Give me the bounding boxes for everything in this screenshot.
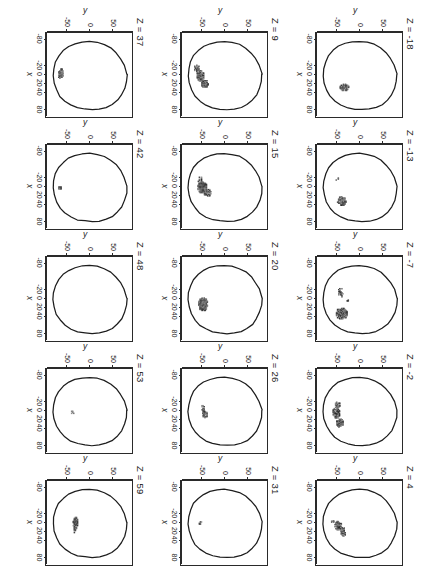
- x-axis-tick-label: 80: [171, 329, 178, 337]
- slice-panel: Z = 42-80-200204080x500-50y: [12, 124, 147, 236]
- panel-title: Z = 4: [405, 466, 416, 489]
- x-axis-tick-label: -20: [36, 508, 43, 518]
- x-axis-tick-label: 20: [171, 191, 178, 199]
- y-axis-tick: [66, 253, 67, 256]
- x-axis-tick: [314, 298, 317, 299]
- plot-area: [180, 144, 268, 230]
- x-axis-tick: [44, 333, 47, 334]
- x-axis-tick-label: 20: [171, 415, 178, 423]
- activation-clusters: [46, 369, 132, 453]
- y-axis-tick: [201, 365, 202, 368]
- plot-area: [315, 368, 403, 454]
- x-axis-title: x: [25, 256, 35, 340]
- y-axis-tick-label: -50: [334, 17, 341, 27]
- y-axis-tick: [201, 477, 202, 480]
- y-axis-tick: [89, 253, 90, 256]
- y-axis-title: y: [218, 229, 222, 239]
- x-axis-tick-label: -80: [171, 482, 178, 492]
- x-axis-tick: [44, 513, 47, 514]
- activation-clusters: [46, 33, 132, 117]
- y-axis-tick: [247, 477, 248, 480]
- slice-panel: Z = 4-80-200204080x500-50y: [282, 460, 417, 572]
- x-axis-tick-label: -80: [171, 258, 178, 268]
- y-axis-tick-label: 0: [357, 23, 364, 27]
- y-axis-tick: [359, 253, 360, 256]
- x-axis-tick: [179, 531, 182, 532]
- y-axis-tick-label: -50: [334, 129, 341, 139]
- x-axis-tick: [179, 65, 182, 66]
- y-axis: 500-50: [182, 236, 268, 256]
- y-axis-tick-label: 50: [244, 467, 251, 475]
- x-axis-tick-label: -80: [306, 34, 313, 44]
- y-axis-tick-label: -50: [199, 17, 206, 27]
- activation-clusters: [46, 481, 132, 565]
- x-axis-tick: [314, 419, 317, 420]
- y-axis-tick-label: -50: [199, 353, 206, 363]
- x-axis-title: x: [25, 368, 35, 452]
- slice-panel: Z = 53-80-200204080x500-50y: [12, 348, 147, 460]
- x-axis-tick-label: 20: [306, 527, 313, 535]
- y-axis-title: y: [83, 453, 87, 463]
- x-axis-tick: [179, 557, 182, 558]
- slice-panel: Z = 59-80-200204080x500-50y: [12, 460, 147, 572]
- x-axis-tick-label: 0: [171, 296, 178, 300]
- slice-panel: Z = 31-80-200204080x500-50y: [147, 460, 282, 572]
- x-axis-tick: [314, 401, 317, 402]
- y-axis-tick-label: 50: [109, 243, 116, 251]
- x-axis-title: x: [295, 480, 305, 564]
- x-axis-title: x: [25, 144, 35, 228]
- x-axis-title: x: [295, 144, 305, 228]
- x-axis-tick: [44, 445, 47, 446]
- x-axis-tick: [44, 531, 47, 532]
- x-axis-tick: [179, 487, 182, 488]
- x-axis-tick: [314, 186, 317, 187]
- x-axis-tick-label: -80: [36, 146, 43, 156]
- x-axis-tick-label: -20: [36, 284, 43, 294]
- activation-clusters: [181, 257, 267, 341]
- y-axis: 500-50: [317, 12, 403, 32]
- x-axis-tick: [314, 263, 317, 264]
- plot-area: [45, 256, 133, 342]
- y-axis-tick-label: 0: [87, 471, 94, 475]
- y-axis-tick-label: -50: [64, 241, 71, 251]
- x-axis-tick: [179, 333, 182, 334]
- x-axis-tick: [314, 109, 317, 110]
- x-axis-tick: [44, 186, 47, 187]
- y-axis-tick-label: 50: [109, 131, 116, 139]
- y-axis-line: [47, 31, 133, 32]
- y-axis-line: [317, 255, 403, 256]
- x-axis-tick-label: 20: [171, 79, 178, 87]
- y-axis-tick: [336, 141, 337, 144]
- y-axis: 500-50: [182, 124, 268, 144]
- y-axis-tick-label: 50: [379, 19, 386, 27]
- panel-title: Z = 26: [270, 354, 281, 382]
- x-axis-tick: [179, 419, 182, 420]
- y-axis-tick: [66, 29, 67, 32]
- x-axis-tick-label: 0: [36, 184, 43, 188]
- activation-clusters: [181, 369, 267, 453]
- y-axis-tick-label: 50: [379, 467, 386, 475]
- x-axis-tick-label: 0: [306, 296, 313, 300]
- y-axis-tick: [224, 253, 225, 256]
- x-axis-tick: [314, 445, 317, 446]
- x-axis-tick: [44, 289, 47, 290]
- x-axis-tick: [179, 263, 182, 264]
- y-axis-tick-label: 0: [357, 359, 364, 363]
- x-axis-tick-label: 0: [36, 408, 43, 412]
- y-axis-line: [317, 143, 403, 144]
- y-axis-tick-label: 0: [222, 23, 229, 27]
- y-axis-line: [317, 367, 403, 368]
- x-axis-tick-label: 20: [36, 527, 43, 535]
- y-axis-title: y: [353, 5, 357, 15]
- x-axis-tick: [314, 39, 317, 40]
- x-axis-tick: [44, 151, 47, 152]
- y-axis-tick-label: 0: [222, 247, 229, 251]
- panel-title: Z = -18: [405, 18, 416, 50]
- plot-area: [315, 32, 403, 118]
- x-axis-tick: [44, 401, 47, 402]
- y-axis-tick: [359, 141, 360, 144]
- x-axis-tick-label: 0: [171, 408, 178, 412]
- x-axis-tick-label: 20: [171, 303, 178, 311]
- x-axis-tick: [44, 487, 47, 488]
- y-axis-title: y: [218, 341, 222, 351]
